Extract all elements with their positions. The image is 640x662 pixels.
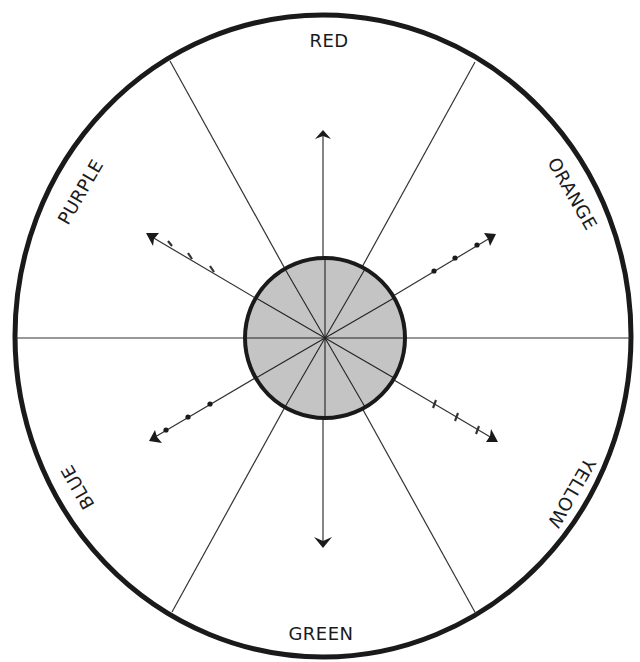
dot-marker [185,414,190,419]
tick-marker [476,426,479,434]
dot-marker [474,242,479,247]
tick-marker [433,400,436,408]
label-green: GREEN [288,623,353,644]
label-red: RED [309,30,348,51]
tick-marker [168,241,172,246]
arrowhead-up-right-icon [484,233,496,246]
dot-marker [431,268,436,273]
tick-marker [455,413,458,421]
center-disc [245,258,405,418]
arrowhead-down-left-icon [149,430,162,443]
dot-marker [452,255,457,260]
dot-marker [207,401,212,406]
color-wheel-diagram: RED GREEN ORANGE YELLOW PURPLE BLUE [0,0,640,662]
label-orange: ORANGE [544,154,602,234]
dot-marker [163,427,168,432]
